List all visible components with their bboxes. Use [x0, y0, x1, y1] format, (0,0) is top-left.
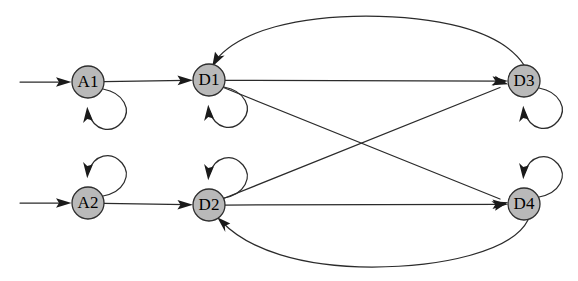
node-A1-circle[interactable]: [72, 66, 104, 98]
edge-d2-d3: [224, 76, 509, 199]
edge-a1-d1-line: [104, 80, 186, 81]
entry-arrow-a1: [20, 77, 72, 87]
edge-d1-d3: [225, 76, 508, 86]
entry-arrow-a2: [20, 198, 72, 208]
diagram-canvas: A1 D1 D3 A2 D2 D4: [0, 0, 578, 281]
edge-d4-d2-head: [217, 217, 230, 232]
edge-d4-d2: [217, 217, 528, 267]
node-A2-circle[interactable]: [72, 187, 104, 219]
node-D2-circle[interactable]: [193, 189, 225, 221]
state-transition-graph: A1 D1 D3 A2 D2 D4: [0, 0, 578, 281]
node-D2[interactable]: D2: [193, 189, 225, 221]
edge-d1-d4-head: [491, 201, 508, 211]
edge-a2-d2-line: [104, 203, 186, 204]
node-D1-circle[interactable]: [193, 64, 225, 96]
edge-d4-d2-line: [222, 220, 528, 267]
edge-d2-d4: [225, 200, 508, 210]
edge-d1-d4: [224, 88, 509, 211]
node-D3[interactable]: D3: [508, 65, 540, 97]
node-D4-circle[interactable]: [508, 188, 540, 220]
edge-d1-d3-line: [225, 80, 501, 81]
edge-d3-d1-line: [216, 16, 524, 65]
node-A1[interactable]: A1: [72, 66, 104, 98]
node-A2[interactable]: A2: [72, 187, 104, 219]
edge-a1-d1: [104, 76, 193, 86]
edge-a2-d2: [104, 200, 193, 210]
edge-d2-d4-line: [225, 204, 501, 205]
node-D1[interactable]: D1: [193, 64, 225, 96]
edge-d3-d1: [212, 16, 524, 67]
node-D3-circle[interactable]: [508, 65, 540, 97]
node-D4[interactable]: D4: [508, 188, 540, 220]
